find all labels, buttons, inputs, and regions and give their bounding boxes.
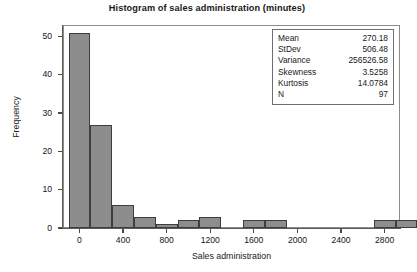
statistics-row: N97 (278, 89, 388, 100)
histogram-bar (178, 220, 200, 228)
statistics-label: StDev (278, 44, 301, 55)
y-tick-mark (58, 36, 62, 37)
statistics-label: Mean (278, 33, 299, 44)
statistics-value: 270.18 (362, 33, 388, 44)
chart-title: Histogram of sales administration (minut… (0, 3, 414, 13)
y-axis-line (62, 25, 63, 229)
statistics-row: StDev506.48 (278, 44, 388, 55)
statistics-label: N (278, 89, 284, 100)
y-tick-mark (58, 112, 62, 113)
x-axis-title: Sales administration (63, 251, 400, 261)
x-tick-label: 2400 (321, 236, 361, 245)
histogram-bar (69, 33, 91, 228)
histogram-bar (374, 220, 396, 228)
histogram-bar (243, 220, 265, 228)
x-tick-mark (166, 229, 167, 233)
histogram-bar (265, 220, 287, 228)
statistics-value: 97 (379, 89, 388, 100)
y-tick-mark (58, 227, 62, 228)
x-tick-label: 400 (103, 236, 143, 245)
statistics-row: Skewness3.5258 (278, 67, 388, 78)
statistics-row: Mean270.18 (278, 33, 388, 44)
statistics-row: Kurtosis14.0784 (278, 78, 388, 89)
y-tick-mark (58, 151, 62, 152)
x-tick-label: 2000 (277, 236, 317, 245)
x-tick-mark (384, 229, 385, 233)
x-tick-label: 2800 (365, 236, 405, 245)
y-tick-mark (58, 189, 62, 190)
x-tick-mark (210, 229, 211, 233)
x-axis-line (62, 228, 401, 229)
statistics-label: Skewness (278, 67, 316, 78)
x-tick-mark (297, 229, 298, 233)
y-tick-mark (58, 74, 62, 75)
histogram-bar (396, 220, 417, 228)
y-tick-label: 10 (14, 185, 52, 194)
x-tick-mark (79, 229, 80, 233)
x-tick-mark (253, 229, 254, 233)
statistics-box: Mean270.18StDev506.48Variance256526.58Sk… (272, 29, 394, 105)
y-axis-title: Frequency (11, 57, 21, 177)
statistics-value: 14.0784 (358, 78, 388, 89)
histogram-bar (199, 217, 221, 228)
statistics-value: 506.48 (362, 44, 388, 55)
x-tick-label: 1600 (234, 236, 274, 245)
y-tick-label: 50 (14, 32, 52, 41)
histogram-bar (134, 217, 156, 228)
histogram-bar (112, 205, 134, 228)
statistics-label: Variance (278, 55, 310, 66)
statistics-label: Kurtosis (278, 78, 308, 89)
statistics-value: 256526.58 (348, 55, 388, 66)
histogram-bar (90, 125, 112, 228)
statistics-value: 3.5258 (362, 67, 388, 78)
y-tick-label: 0 (14, 224, 52, 233)
x-tick-label: 0 (59, 236, 99, 245)
x-tick-mark (122, 229, 123, 233)
x-tick-label: 1200 (190, 236, 230, 245)
x-tick-mark (340, 229, 341, 233)
statistics-row: Variance256526.58 (278, 55, 388, 66)
x-tick-label: 800 (147, 236, 187, 245)
